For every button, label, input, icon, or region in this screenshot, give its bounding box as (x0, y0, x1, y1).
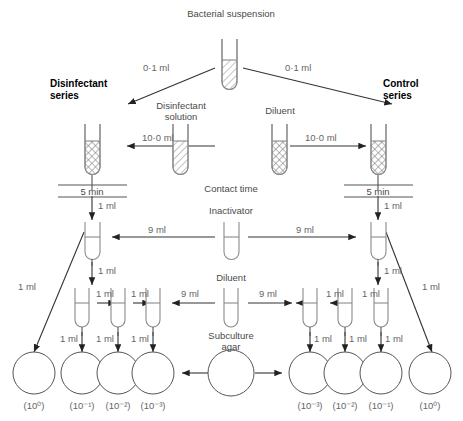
label-serial-l2: 1 ml (131, 288, 149, 299)
plate-left-10-3 (132, 352, 174, 394)
heading-disinfectant-series-line2: series (50, 90, 79, 102)
label-plate-r2: 1 ml (349, 333, 367, 344)
label-contact-time: Contact time (204, 183, 257, 194)
label-left-to-serial: 1 ml (98, 265, 116, 276)
label-plate-l1: 1 ml (60, 333, 78, 344)
tube-inactivated-right (371, 222, 386, 266)
label-plate-r1: 1 ml (385, 333, 403, 344)
tube-disinfectant-solution (173, 124, 188, 175)
label-diluent-left-arrow: 9 ml (181, 288, 199, 299)
agar-plates (13, 350, 451, 396)
plate-subculture-agar (208, 350, 254, 396)
heading-control-series-line2: series (383, 90, 412, 102)
label-inoculum-right: 0·1 ml (285, 62, 311, 73)
plate-label-right-10-1: (10⁻¹) (368, 400, 393, 411)
label-serial-r1: 1 ml (326, 288, 344, 299)
label-diluent-right: Diluent (265, 105, 295, 116)
label-plate-l3: 1 ml (131, 333, 149, 344)
label-disinfectant-add: 10·0 ml (142, 132, 174, 143)
label-diagonal-left: 1 ml (18, 281, 36, 292)
plate-right-10-0 (409, 352, 451, 394)
label-inoculum-left: 0·1 ml (143, 62, 169, 73)
heading-disinfectant-series-line1: Disinfectant (50, 78, 107, 90)
label-disinfectant-solution-line2: solution (165, 111, 198, 122)
label-plate-r3: 1 ml (314, 333, 332, 344)
label-subculture-agar-line2: agar (221, 341, 240, 352)
arrow-inoculum-left (128, 68, 215, 104)
tube-disinfectant-series (85, 124, 100, 190)
label-diluent-center: Diluent (216, 272, 246, 283)
plate-label-right-10-0: (10⁰) (420, 400, 441, 411)
plate-label-right-10-3: (10⁻³) (297, 400, 322, 411)
label-inactivator: Inactivator (209, 205, 253, 216)
plate-label-left-10-3: (10⁻³) (140, 400, 165, 411)
label-serial-r2: 1 ml (362, 288, 380, 299)
label-diluent-add: 10·0 ml (305, 132, 337, 143)
label-serial-l1: 1 ml (96, 288, 114, 299)
tube-dilution-r3 (303, 288, 317, 336)
plate-label-left-10-1: (10⁻¹) (69, 400, 94, 411)
source-tube-label-line1: Bacterial suspension (187, 8, 275, 19)
label-inactivator-left: 9 ml (148, 224, 166, 235)
tube-dilution-l1 (75, 288, 89, 336)
label-diluent-right-arrow: 9 ml (259, 288, 277, 299)
tube-bacterial-suspension (222, 39, 237, 90)
label-inactivator-right: 9 ml (296, 224, 314, 235)
plate-right-10-1 (360, 352, 402, 394)
tube-diluent-right (272, 124, 287, 175)
tube-inactivator (224, 222, 239, 260)
label-right-to-serial: 1 ml (384, 265, 402, 276)
label-drop-right: 1 ml (384, 200, 402, 211)
label-drop-left: 1 ml (98, 200, 116, 211)
label-disinfectant-solution-line1: Disinfectant (156, 100, 206, 111)
label-timer-left: 5 min (80, 186, 103, 197)
arrow-inoculum-right (243, 68, 392, 104)
plate-label-left-10-0: (10⁰) (24, 400, 45, 411)
plate-left-10-0 (13, 352, 55, 394)
diagram-canvas: Bacterial suspension Disinfectant series… (0, 0, 463, 421)
heading-control-series-line1: Control (383, 78, 419, 90)
label-diagonal-right: 1 ml (422, 281, 440, 292)
label-timer-right: 5 min (366, 186, 389, 197)
label-subculture-agar-line1: Subculture (208, 330, 253, 341)
plate-label-left-10-2: (10⁻²) (105, 400, 130, 411)
label-plate-l2: 1 ml (96, 333, 114, 344)
tube-diluent-center (224, 288, 238, 327)
tube-control-series (371, 124, 386, 190)
plate-label-right-10-2: (10⁻²) (332, 400, 357, 411)
tube-inactivated-left (85, 222, 100, 266)
